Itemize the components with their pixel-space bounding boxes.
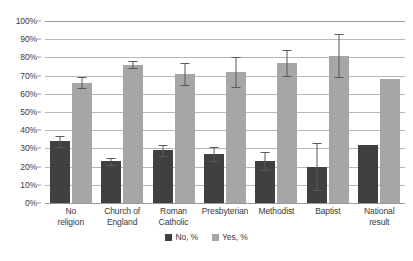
bar-slot — [50, 21, 70, 203]
error-bar-line — [338, 34, 339, 78]
gridline-0 — [45, 203, 405, 204]
error-bar-cap-bottom — [55, 147, 64, 148]
y-tick-label: 40% — [20, 125, 37, 135]
bar-yes[interactable] — [277, 63, 297, 203]
y-axis: 0%10%20%30%40%50%60%70%80%90%100% — [0, 21, 41, 203]
error-bar-cap-top — [334, 34, 343, 35]
error-bar-cap-top — [77, 77, 86, 78]
error-bar-cap-bottom — [107, 165, 116, 166]
bar-slot — [380, 21, 400, 203]
x-axis-label-line: England — [96, 217, 147, 228]
bar-yes[interactable] — [175, 74, 195, 203]
y-tick-mark — [37, 21, 41, 22]
x-axis-label-line: Baptist — [302, 206, 353, 217]
x-axis-label: Church ofEngland — [96, 206, 147, 227]
error-bar-line — [316, 143, 317, 190]
y-tick-label: 30% — [20, 143, 37, 153]
chart-legend: No, %Yes, % — [0, 232, 413, 242]
legend-swatch-icon — [212, 234, 219, 241]
y-tick-mark — [37, 112, 41, 113]
error-bar-cap-top — [180, 63, 189, 64]
y-tick-label: 100% — [16, 16, 37, 26]
error-bar-cap-top — [107, 158, 116, 159]
x-axis-label-line: Presbyterian — [199, 206, 250, 217]
error-bar-cap-top — [231, 57, 240, 58]
bar-groups — [45, 21, 405, 203]
x-axis: NoreligionChurch ofEnglandRomanCatholicP… — [45, 206, 405, 227]
grouped-bar-chart: 0%10%20%30%40%50%60%70%80%90%100% Noreli… — [0, 0, 413, 261]
x-axis-label-line: result — [354, 217, 405, 228]
y-tick-mark — [37, 203, 41, 204]
error-bar-cap-bottom — [209, 161, 218, 162]
error-bar-line — [111, 158, 112, 165]
error-bar-line — [287, 50, 288, 75]
legend-label: Yes, % — [222, 232, 248, 242]
y-tick-mark — [37, 39, 41, 40]
x-axis-label: RomanCatholic — [148, 206, 199, 227]
bar-no[interactable] — [358, 145, 378, 203]
x-axis-label: Presbyterian — [199, 206, 250, 227]
x-axis-label: Nationalresult — [354, 206, 405, 227]
bar-slot — [358, 21, 378, 203]
bar-no[interactable] — [101, 161, 121, 203]
error-bar-line — [162, 145, 163, 156]
error-bar-line — [265, 152, 266, 170]
error-bar-cap-top — [312, 143, 321, 144]
x-axis-label-line: Methodist — [251, 206, 302, 217]
y-tick-mark — [37, 148, 41, 149]
bar-no[interactable] — [50, 141, 70, 203]
bar-group — [148, 21, 199, 203]
y-tick-label: 60% — [20, 89, 37, 99]
bar-no[interactable] — [153, 150, 173, 203]
error-bar-cap-top — [283, 50, 292, 51]
bar-slot — [101, 21, 121, 203]
error-bar-line — [133, 61, 134, 68]
error-bar-cap-bottom — [334, 77, 343, 78]
legend-swatch-icon — [165, 234, 172, 241]
y-tick-mark — [37, 75, 41, 76]
y-tick-label: 10% — [20, 180, 37, 190]
error-bar-cap-top — [158, 145, 167, 146]
y-tick-label: 70% — [20, 71, 37, 81]
bar-slot — [175, 21, 195, 203]
error-bar-cap-bottom — [261, 170, 270, 171]
x-axis-label: Methodist — [251, 206, 302, 227]
y-tick-label: 80% — [20, 52, 37, 62]
bar-slot — [226, 21, 246, 203]
error-bar-cap-bottom — [231, 87, 240, 88]
error-bar-line — [235, 57, 236, 86]
x-axis-label-line: Roman — [148, 206, 199, 217]
error-bar-cap-top — [209, 147, 218, 148]
y-tick-label: 50% — [20, 107, 37, 117]
error-bar-cap-top — [129, 61, 138, 62]
bar-yes[interactable] — [123, 65, 143, 203]
legend-item[interactable]: Yes, % — [212, 232, 248, 242]
y-tick-mark — [37, 130, 41, 131]
bar-slot — [329, 21, 349, 203]
error-bar-line — [59, 136, 60, 147]
error-bar-cap-bottom — [312, 190, 321, 191]
bar-group — [45, 21, 96, 203]
legend-item[interactable]: No, % — [165, 232, 198, 242]
error-bar-cap-bottom — [283, 76, 292, 77]
error-bar-cap-top — [261, 152, 270, 153]
error-bar-line — [213, 147, 214, 162]
y-tick-label: 90% — [20, 34, 37, 44]
y-tick-mark — [37, 57, 41, 58]
error-bar-cap-bottom — [77, 88, 86, 89]
plot-area — [45, 21, 405, 203]
bar-slot — [307, 21, 327, 203]
y-tick-label: 20% — [20, 162, 37, 172]
x-axis-label-line: National — [354, 206, 405, 217]
legend-label: No, % — [175, 232, 198, 242]
x-axis-label-line: Church of — [96, 206, 147, 217]
bar-yes[interactable] — [226, 72, 246, 203]
bar-yes[interactable] — [380, 79, 400, 203]
bar-group — [199, 21, 250, 203]
bar-slot — [277, 21, 297, 203]
error-bar-cap-top — [55, 136, 64, 137]
x-axis-label: Baptist — [302, 206, 353, 227]
x-axis-label-line: religion — [45, 217, 96, 228]
bar-slot — [255, 21, 275, 203]
bar-yes[interactable] — [72, 83, 92, 203]
